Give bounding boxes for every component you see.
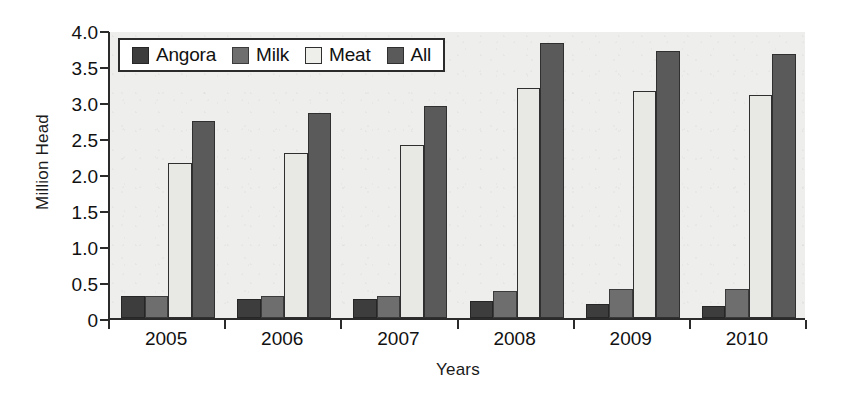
bar-all-2010 [772, 54, 796, 318]
bar-milk-2006 [261, 296, 285, 318]
legend-swatch-all-icon [387, 47, 404, 64]
bar-all-2006 [308, 113, 332, 318]
y-axis-tick-label: 0 [12, 311, 98, 330]
chart-legend: AngoraMilkMeatAll [118, 38, 445, 72]
y-axis-tick-label: 4.0 [12, 23, 98, 42]
legend-label: Angora [156, 44, 216, 66]
y-axis-tick-label: 3.0 [12, 95, 98, 114]
bar-angora-2009 [586, 304, 610, 318]
plot-area [108, 32, 805, 320]
bar-angora-2006 [237, 299, 261, 318]
bar-meat-2010 [749, 95, 773, 318]
bar-all-2005 [192, 121, 216, 318]
y-axis-tick-mark [100, 211, 109, 213]
bar-all-2008 [540, 43, 564, 318]
legend-swatch-meat-icon [305, 47, 322, 64]
legend-entry-meat[interactable]: Meat [305, 44, 370, 66]
bar-meat-2007 [400, 145, 424, 318]
bar-milk-2005 [145, 296, 169, 318]
bar-all-2007 [424, 106, 448, 318]
y-axis-tick-mark [100, 67, 109, 69]
y-axis-tick-label: 2.0 [12, 167, 98, 186]
bar-meat-2008 [517, 88, 541, 318]
bar-angora-2010 [702, 306, 726, 318]
x-axis-tick-label: 2010 [687, 328, 807, 350]
y-axis-tick-label: 2.5 [12, 131, 98, 150]
y-axis-tick-mark [100, 247, 109, 249]
bar-all-2009 [656, 51, 680, 318]
legend-label: Milk [256, 44, 289, 66]
x-axis-tick-label: 2008 [455, 328, 575, 350]
legend-entry-angora[interactable]: Angora [132, 44, 216, 66]
x-axis-tick-label: 2009 [571, 328, 691, 350]
y-axis-tick-mark [100, 31, 109, 33]
x-axis-title: Years [108, 360, 808, 380]
legend-entry-milk[interactable]: Milk [232, 44, 289, 66]
x-axis-tick-label: 2006 [222, 328, 342, 350]
bar-angora-2008 [470, 301, 494, 318]
bar-meat-2009 [633, 91, 657, 318]
bar-angora-2005 [121, 296, 145, 318]
legend-entry-all[interactable]: All [387, 44, 432, 66]
bar-milk-2009 [609, 289, 633, 318]
bar-meat-2005 [168, 163, 192, 318]
legend-swatch-milk-icon [232, 47, 249, 64]
y-axis-tick-mark [100, 103, 109, 105]
y-axis-tick-label: 1.5 [12, 203, 98, 222]
y-axis-tick-label: 0.5 [12, 275, 98, 294]
bar-chart-figure: Million Head 00.51.01.52.02.53.03.54.0 2… [0, 0, 846, 393]
legend-label: Meat [329, 44, 370, 66]
y-axis-tick-mark [100, 139, 109, 141]
x-axis-tick-label: 2005 [106, 328, 226, 350]
y-axis-tick-mark [100, 283, 109, 285]
legend-swatch-angora-icon [132, 47, 149, 64]
bar-meat-2006 [284, 153, 308, 318]
y-axis-tick-labels: 00.51.01.52.02.53.03.54.0 [0, 0, 98, 393]
x-axis-tick-label: 2007 [338, 328, 458, 350]
bar-milk-2008 [493, 291, 517, 318]
y-axis-tick-mark [100, 175, 109, 177]
legend-label: All [411, 44, 432, 66]
bar-angora-2007 [353, 299, 377, 318]
bar-milk-2010 [725, 289, 749, 318]
bar-milk-2007 [377, 296, 401, 318]
y-axis-tick-label: 1.0 [12, 239, 98, 258]
y-axis-tick-label: 3.5 [12, 59, 98, 78]
